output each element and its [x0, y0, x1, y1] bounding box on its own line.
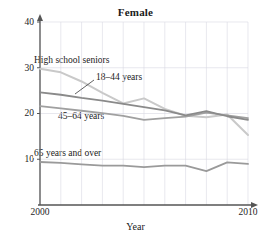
axes	[37, 14, 258, 208]
chart-figure: Female 40 30 20 10 2000 2010 Year High s…	[0, 0, 271, 244]
chart-canvas	[0, 0, 271, 244]
